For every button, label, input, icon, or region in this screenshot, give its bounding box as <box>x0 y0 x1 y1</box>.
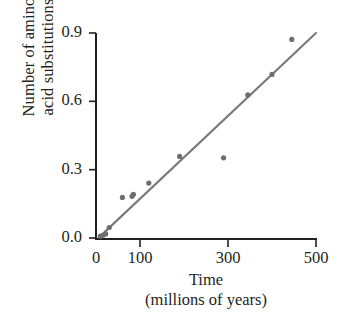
y-axis-title-line-2: acid substitutions <box>38 0 57 115</box>
data-point <box>269 72 274 77</box>
data-point <box>177 154 182 159</box>
trend-line <box>100 33 316 237</box>
y-axis-title: Number of amino acid substitutions <box>15 0 61 157</box>
x-axis-title-units: (millions of years) <box>96 290 316 310</box>
x-tick-label: 0 <box>79 248 113 268</box>
data-point <box>103 231 108 236</box>
plot-area: 0.00.30.60.9 0100300500 Number of amino … <box>0 0 348 333</box>
data-point <box>289 37 294 42</box>
y-tick-label: 0.0 <box>48 227 82 247</box>
y-axis-title-line-1: Number of amino <box>19 0 38 116</box>
data-points <box>98 37 295 239</box>
x-axis-title-main: Time <box>96 270 316 290</box>
x-tick-label: 300 <box>211 248 245 268</box>
y-tick-label: 0.3 <box>48 159 82 179</box>
data-point <box>107 225 112 230</box>
x-axis-title: Time (millions of years) <box>96 270 316 311</box>
data-point <box>131 192 136 197</box>
x-axis-ticks <box>140 239 316 247</box>
trend-line-segment <box>100 33 316 237</box>
data-point <box>146 181 151 186</box>
data-point <box>245 92 250 97</box>
x-tick-label: 500 <box>299 248 333 268</box>
x-tick-label: 100 <box>123 248 157 268</box>
data-point <box>120 195 125 200</box>
amino-acid-substitution-scatter-chart: 0.00.30.60.9 0100300500 Number of amino … <box>0 0 348 333</box>
y-axis-ticks <box>89 33 96 238</box>
data-point <box>221 155 226 160</box>
